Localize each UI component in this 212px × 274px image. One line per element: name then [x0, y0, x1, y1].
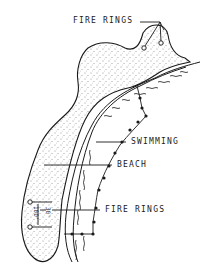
label-fire-rings-top: FIRE RINGS: [73, 17, 133, 25]
label-swimming: SWIMMING: [131, 138, 179, 146]
dimension-spacing: 100': [33, 206, 39, 220]
label-fire-rings-bottom: FIRE RINGS: [105, 206, 165, 214]
dimension-setback: 30': [45, 207, 51, 218]
beach-site-plan: [0, 0, 212, 274]
label-beach: BEACH: [117, 161, 147, 169]
